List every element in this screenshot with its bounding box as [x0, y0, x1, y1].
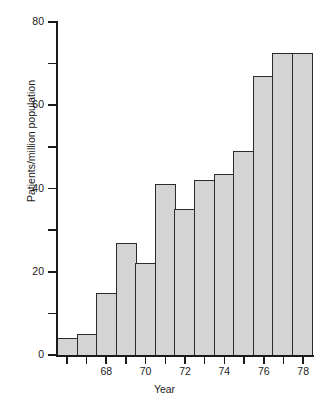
- x-tick-label-74: 74: [219, 366, 231, 377]
- y-tick-80: [48, 21, 57, 23]
- bar-74: [214, 174, 235, 355]
- bar-72: [174, 209, 195, 355]
- y-minor-tick-50: [48, 146, 57, 148]
- bar-73: [194, 180, 215, 355]
- y-tick-label-40: 40: [0, 183, 44, 194]
- y-tick-label-80: 80: [0, 16, 44, 27]
- bar-69: [116, 243, 137, 355]
- x-axis-title: Year: [0, 383, 329, 395]
- plot-area: [57, 22, 313, 355]
- y-tick-60: [48, 104, 57, 106]
- x-tick-74: [224, 356, 226, 364]
- y-tick-label-60: 60: [0, 99, 44, 110]
- bar-77: [272, 53, 293, 355]
- x-tick-label-72: 72: [179, 366, 191, 377]
- y-tick-0: [48, 354, 57, 356]
- y-minor-tick-70: [48, 63, 57, 65]
- y-minor-tick-30: [48, 229, 57, 231]
- bar-67: [77, 334, 98, 355]
- y-tick-40: [48, 188, 57, 190]
- bar-68: [96, 293, 117, 355]
- x-tick-77: [283, 356, 285, 364]
- y-tick-label-20: 20: [0, 266, 44, 277]
- x-tick-78: [302, 356, 304, 364]
- x-tick-72: [184, 356, 186, 364]
- x-tick-73: [204, 356, 206, 364]
- y-axis-title: Patients/million population: [25, 46, 37, 236]
- x-tick-75: [243, 356, 245, 364]
- bar-70: [135, 263, 156, 355]
- bar-66: [57, 338, 78, 355]
- bar-78: [292, 53, 313, 355]
- x-tick-69: [125, 356, 127, 364]
- bar-71: [155, 184, 176, 355]
- y-tick-label-0: 0: [0, 349, 44, 360]
- x-tick-67: [86, 356, 88, 364]
- x-tick-76: [263, 356, 265, 364]
- x-tick-label-78: 78: [297, 366, 309, 377]
- bar-76: [253, 76, 274, 355]
- x-tick-label-76: 76: [258, 366, 270, 377]
- y-tick-20: [48, 271, 57, 273]
- x-tick-71: [165, 356, 167, 364]
- x-tick-label-68: 68: [100, 366, 112, 377]
- y-minor-tick-10: [48, 313, 57, 315]
- bar-series: [57, 22, 313, 355]
- x-tick-70: [145, 356, 147, 364]
- bar-chart-figure: 020406080 687072747678 Patients/million …: [0, 0, 329, 406]
- x-tick-68: [105, 356, 107, 364]
- bar-75: [233, 151, 254, 355]
- x-tick-label-70: 70: [140, 366, 152, 377]
- x-tick-66: [66, 356, 68, 364]
